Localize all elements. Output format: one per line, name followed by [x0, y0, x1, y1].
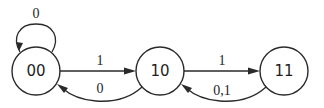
arrowhead-icon [124, 68, 136, 75]
state-label: 10 [150, 62, 169, 80]
state-00: 00 [12, 47, 60, 95]
state-11: 11 [260, 47, 308, 95]
state-label: 11 [274, 62, 293, 80]
transition-00-to-10: 1 [60, 53, 136, 75]
edge-label: 0,1 [213, 83, 231, 98]
state-10: 10 [136, 47, 184, 95]
edge-label: 1 [97, 53, 104, 68]
transition-00-to-00: 0 [16, 6, 55, 53]
edge-label: 1 [219, 53, 226, 68]
edge-label: 0 [97, 81, 104, 96]
arrowhead-icon [248, 68, 260, 75]
transition-10-to-11: 1 [184, 53, 260, 75]
transition-11-to-10: 0,1 [181, 83, 266, 102]
transition-10-to-00: 0 [57, 81, 142, 102]
state-label: 00 [26, 62, 45, 80]
state-diagram: 0 1 0 1 0,1 00 10 11 [0, 0, 324, 108]
edge-label: 0 [33, 6, 40, 21]
